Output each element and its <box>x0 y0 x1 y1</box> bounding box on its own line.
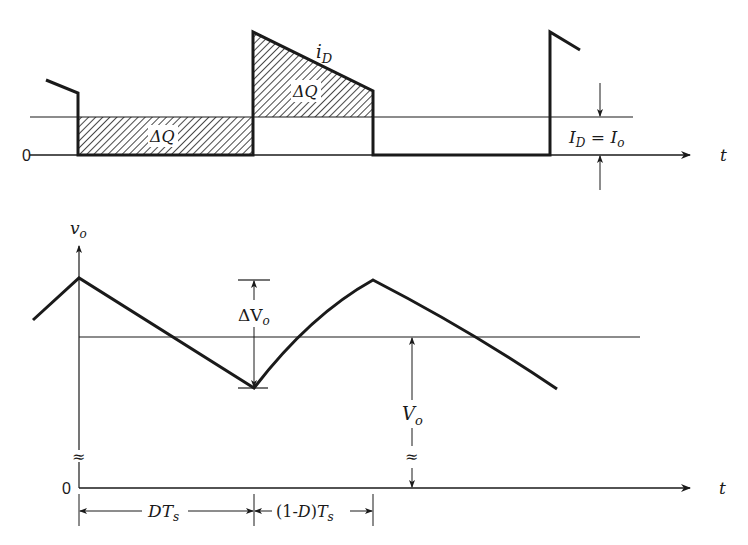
output-voltage-waveform <box>33 278 557 389</box>
ripple-diagram: 0 iD ΔQ ΔQ ID = Io t ≈ ΔVo <box>0 0 748 545</box>
ripple-label: ΔVo <box>238 305 270 328</box>
bottom-zero-label: 0 <box>62 480 71 497</box>
axis-break-symbol: ≈ <box>72 447 85 466</box>
charge-area-positive <box>253 32 373 117</box>
output-voltage-plot: ≈ ΔVo ≈ Vo vo 0 t <box>0 0 726 526</box>
interval-2-label: (1-D)Ts <box>276 502 334 524</box>
top-zero-label: 0 <box>22 147 31 164</box>
charge-label-negative: ΔQ <box>149 127 175 146</box>
avg-current-label: ID = Io <box>568 127 624 150</box>
voltage-axis-label: vo <box>70 218 87 241</box>
vo-break-symbol: ≈ <box>405 447 418 466</box>
diode-current-label: iD <box>316 41 333 66</box>
average-voltage-label: Vo <box>402 403 423 428</box>
top-time-axis-label: t <box>720 145 727 165</box>
charge-label-positive: ΔQ <box>292 82 318 101</box>
interval-1-label: DTs <box>147 501 179 524</box>
diode-current-plot: 0 iD ΔQ ΔQ ID = Io t <box>22 32 727 190</box>
bottom-time-axis-label: t <box>719 478 726 498</box>
